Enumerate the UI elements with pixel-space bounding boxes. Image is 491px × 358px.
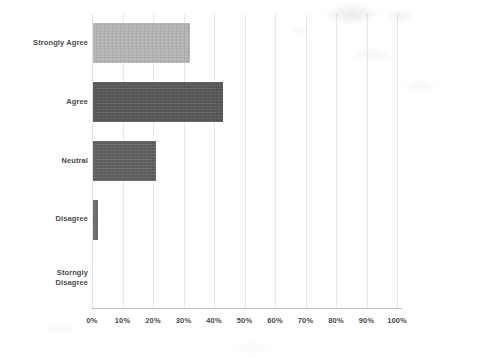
bar-row <box>92 73 223 132</box>
x-axis-line <box>92 308 402 309</box>
plot-area <box>92 14 397 308</box>
x-axis-tick-20: 20% <box>145 316 160 325</box>
y-axis-labels: Strongly Agree Agree Neutral Disagree St… <box>0 14 88 308</box>
gridline-100 <box>397 14 398 308</box>
y-axis-line <box>92 14 93 308</box>
x-axis-tick-50: 50% <box>237 316 252 325</box>
bar-chart: Strongly Agree Agree Neutral Disagree St… <box>0 0 491 358</box>
y-axis-label-storngly-disagree: Storngly Disagree <box>4 268 88 287</box>
x-axis-labels: 0%10%20%30%40%50%60%70%80%90%100% <box>92 316 402 332</box>
y-axis-label-strongly-agree: Strongly Agree <box>4 38 88 48</box>
gridline-60 <box>275 14 276 308</box>
x-axis-tick-60: 60% <box>267 316 282 325</box>
gridline-40 <box>214 14 215 308</box>
gridline-50 <box>245 14 246 308</box>
bar-strongly-agree[interactable] <box>92 23 190 63</box>
gridline-70 <box>306 14 307 308</box>
y-axis-label-line-1: Storngly <box>57 268 88 277</box>
bar-neutral[interactable] <box>92 141 156 181</box>
x-axis-tick-30: 30% <box>176 316 191 325</box>
gridline-80 <box>336 14 337 308</box>
gridline-90 <box>367 14 368 308</box>
y-axis-label-agree: Agree <box>4 97 88 107</box>
bar-agree[interactable] <box>92 82 223 122</box>
x-axis-tick-80: 80% <box>328 316 343 325</box>
bar-row <box>92 14 190 73</box>
bar-row <box>92 132 156 191</box>
y-axis-label-disagree: Disagree <box>4 214 88 224</box>
y-axis-label-line-2: Disagree <box>56 278 89 287</box>
x-axis-tick-10: 10% <box>115 316 130 325</box>
x-axis-tick-100: 100% <box>387 316 407 325</box>
x-axis-tick-0: 0% <box>86 316 97 325</box>
x-axis-tick-90: 90% <box>359 316 374 325</box>
y-axis-label-neutral: Neutral <box>4 156 88 166</box>
x-axis-tick-40: 40% <box>206 316 221 325</box>
x-axis-tick-70: 70% <box>298 316 313 325</box>
